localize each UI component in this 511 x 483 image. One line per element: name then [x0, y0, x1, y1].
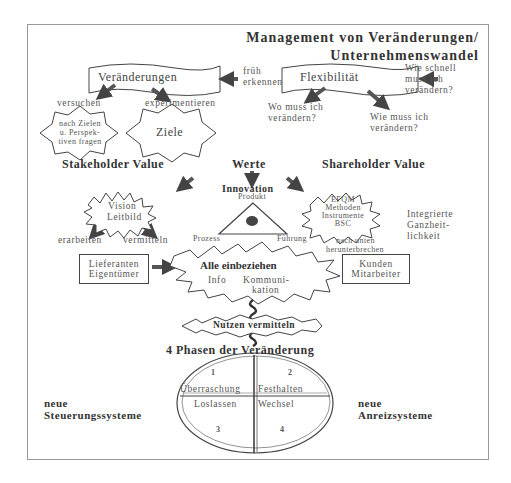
leitbild-label: Leitbild: [107, 212, 142, 222]
phase-4-number: 4: [280, 426, 284, 435]
alle-einbeziehen: Alle einbeziehen: [200, 259, 277, 271]
shareholder-value: Shareholder Value: [322, 158, 425, 171]
box-kunden: Kunden: [359, 259, 393, 269]
label-kation: kation: [252, 285, 279, 295]
vision-label: Vision: [108, 201, 136, 211]
triangle-produkt: Produkt: [238, 193, 266, 202]
star2-ziele: Ziele: [156, 126, 183, 139]
phase-2-number: 2: [288, 369, 292, 378]
banner-veraenderungen: Veränderungen: [98, 71, 177, 84]
triangle-prozess: Prozess: [193, 235, 220, 244]
phase-wechsel: Wechsel: [258, 399, 294, 409]
note-muss-ich: muss ich: [405, 74, 443, 84]
stakeholder-value: Stakeholder Value: [62, 158, 164, 171]
banner-flexibilitaet: Flexibilität: [300, 71, 359, 84]
title-line1: Management von Veränderungen/: [246, 30, 479, 45]
title-line2: Unternehmenswandel: [330, 48, 479, 63]
neue-steuerungssysteme: Steuerungssysteme: [44, 409, 142, 421]
phase-1-number: 1: [211, 369, 215, 378]
star1-line3: tiven fragen: [57, 138, 103, 147]
label-wie-muss-ich: Wie muss ich: [370, 112, 429, 122]
label-versuchen: versuchen: [57, 98, 101, 108]
label-ganzheit: Ganzheit-: [407, 220, 450, 230]
label-vermitteln: vermitteln: [123, 235, 168, 245]
phase-loslassen: Loslassen: [194, 399, 237, 409]
label-info: Info: [208, 275, 226, 285]
label-lichkeit: lichkeit: [407, 231, 440, 241]
box-eigentuemer: Eigentümer: [89, 269, 139, 279]
neue-right: neue: [358, 397, 382, 409]
neue-left: neue: [44, 397, 68, 409]
label-experimentieren: experimentieren: [145, 98, 216, 108]
phases-heading: 4 Phasen der Veränderung: [166, 344, 314, 357]
phase-festhalten: Festhalten: [258, 384, 303, 394]
label-wo-veraendern: verändern?: [268, 113, 316, 123]
werte-label: Werte: [232, 158, 266, 171]
nutzen-vermitteln: Nutzen vermitteln: [213, 320, 295, 330]
note-wie-schnell: Wie schnell: [405, 63, 456, 73]
box-mitarbeiter: Mitarbeiter: [351, 269, 400, 279]
label-kommuni: Kommuni-: [243, 275, 290, 285]
box-lieferanten: Lieferanten: [89, 259, 139, 269]
triangle-fuehrung: Führung: [277, 235, 307, 244]
efqm-line4: BSC: [318, 220, 368, 229]
note-erkennen: erkennen: [243, 77, 283, 87]
triangle-dot: [246, 216, 258, 226]
note-veraendern: verändern?: [405, 85, 453, 95]
label-wo-muss-ich: Wo muss ich: [268, 102, 323, 112]
phase-3-number: 3: [216, 426, 220, 435]
phase-ueberraschung: Überraschung: [180, 384, 240, 394]
label-integrierte: Integrierte: [407, 209, 453, 219]
neue-anreizsysteme: Anreizsysteme: [358, 409, 433, 421]
box-kunden-mitarbeiter: Kunden Mitarbeiter: [342, 254, 410, 284]
note-frueh: früh: [243, 66, 261, 76]
label-wie-veraendern: verändern?: [370, 123, 418, 133]
label-erarbeiten: erarbeiten: [58, 235, 102, 245]
box-lieferanten-eigentuemer: Lieferanten Eigentümer: [79, 254, 149, 284]
